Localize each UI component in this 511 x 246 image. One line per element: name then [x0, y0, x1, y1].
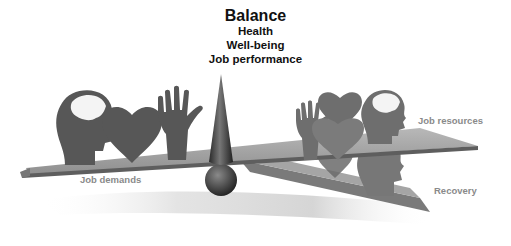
- fulcrum-cone: [209, 74, 233, 165]
- label-job-resources: Job resources: [418, 115, 483, 126]
- label-recovery: Recovery: [434, 185, 477, 196]
- label-job-demands: Job demands: [80, 174, 141, 185]
- fulcrum: [205, 74, 237, 196]
- hand-icon: [158, 86, 203, 160]
- heart-icon: [102, 107, 162, 163]
- left-icons: [56, 86, 203, 165]
- fulcrum-sphere: [205, 164, 237, 196]
